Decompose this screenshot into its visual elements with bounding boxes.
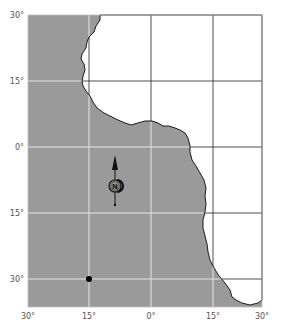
location-dot-icon[interactable]: [86, 276, 92, 282]
lon-label-15e: 15°: [206, 312, 220, 321]
lon-label-15w: 15°: [82, 312, 96, 321]
lat-label-0: 0°: [15, 143, 24, 152]
lon-label-30w: 30°: [21, 312, 35, 321]
lon-label-0: 0°: [146, 312, 155, 321]
lat-label-15n: 15°: [10, 77, 24, 86]
lat-label-30s: 30°: [10, 275, 24, 284]
lat-label-30n: 30°: [10, 11, 24, 20]
compass-n-letter: N: [112, 183, 118, 191]
longitude-labels: 30° 15° 0° 15° 30°: [21, 312, 269, 321]
lon-label-30e: 30°: [255, 312, 269, 321]
lat-label-15s: 15°: [10, 209, 24, 218]
latitude-labels: 30° 15° 0° 15° 30°: [10, 11, 24, 284]
map-canvas: 30° 15° 0° 15° 30° 30° 15° 0° 15° 30° N: [0, 0, 288, 333]
